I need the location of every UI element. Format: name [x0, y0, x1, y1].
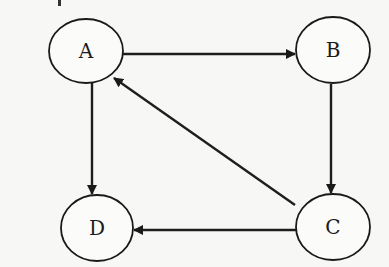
- node-b-label: B: [326, 38, 341, 62]
- node-d-label: D: [89, 216, 105, 240]
- directed-graph: A B C D: [0, 0, 389, 267]
- node-a: A: [49, 19, 123, 83]
- edge-c-to-a: [114, 78, 295, 205]
- node-d: D: [61, 195, 133, 261]
- node-c: C: [296, 194, 370, 260]
- node-b: B: [296, 17, 370, 83]
- node-c-label: C: [325, 215, 340, 239]
- edges: [92, 54, 331, 230]
- diagram-canvas: A B C D: [0, 0, 389, 267]
- node-a-label: A: [78, 39, 94, 63]
